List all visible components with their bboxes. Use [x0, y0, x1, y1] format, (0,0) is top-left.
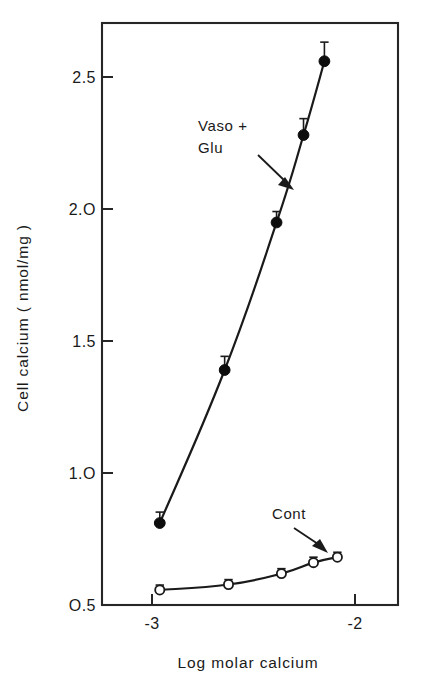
annotation-vaso-glu-line1: Vaso + [198, 117, 248, 134]
x-tick-label-minus3: -3 [144, 615, 159, 632]
annotation-vaso-glu-line2: Glu [198, 139, 223, 156]
x-axis-ticks [152, 594, 355, 605]
data-point-marker [154, 518, 165, 529]
data-point-marker [224, 580, 233, 589]
series-cont [155, 552, 342, 594]
y-axis-title: Cell calcium ( nmol/mg ) [14, 224, 31, 412]
x-axis-title: Log molar calcium [177, 654, 318, 671]
x-tick-label-minus2: -2 [347, 615, 362, 632]
data-point-marker [155, 585, 164, 594]
y-axis-ticks [102, 77, 113, 473]
y-tick-label-1-0: 1.O [69, 465, 96, 482]
y-tick-label-2-5: 2.5 [72, 69, 96, 86]
y-tick-label-1-5: 1.5 [72, 333, 96, 350]
y-tick-label-0-5: O.5 [69, 597, 96, 614]
y-axis-tick-labels: 2.5 2.O 1.5 1.O O.5 [69, 69, 96, 614]
annotation-vaso-glu: Vaso + Glu [198, 117, 294, 190]
data-point-marker [277, 569, 286, 578]
series-vaso-glu-errorbars [156, 42, 329, 523]
data-point-marker [319, 56, 330, 67]
data-point-marker [219, 365, 230, 376]
cell-calcium-dose-response-chart: 2.5 2.O 1.5 1.O O.5 -3 -2 Cell calcium (… [0, 0, 435, 683]
data-point-marker [309, 558, 318, 567]
y-tick-label-2-0: 2.O [69, 201, 96, 218]
x-axis-tick-labels: -3 -2 [144, 615, 362, 632]
data-point-marker [298, 130, 309, 141]
annotation-cont: Cont [272, 505, 328, 553]
plot-frame [102, 23, 398, 605]
series-vaso-glu [154, 42, 329, 528]
data-point-marker [333, 553, 342, 562]
annotation-vaso-glu-arrow-line [258, 155, 287, 183]
data-point-marker [271, 217, 282, 228]
annotation-cont-line1: Cont [272, 505, 306, 522]
